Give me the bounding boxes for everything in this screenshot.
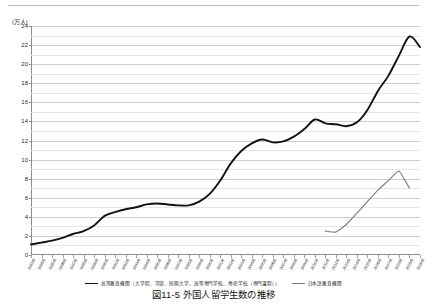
gridline-minor <box>31 150 420 151</box>
x-axis-tick-label: 1987年 <box>69 258 79 271</box>
x-axis-tick-label: 1997年 <box>174 258 184 271</box>
figure-container: (万人) 024681012141618202224 1983年1984年198… <box>0 0 427 306</box>
x-axis-tick-label: 1996年 <box>163 258 173 271</box>
x-axis-tick-label: 1988年 <box>79 258 89 271</box>
x-axis-tick-label: 1995年 <box>153 258 163 271</box>
chart-legend: 高等教育機関（大学院、学部、短期大学、高等専門学校、専修学校（専門課程））日本語… <box>0 281 427 286</box>
x-axis-tick-label: 2020年 <box>416 258 426 271</box>
y-axis-tick-label: 12 <box>21 138 28 144</box>
x-axis-tick-label: 1984年 <box>37 258 47 271</box>
x-axis-tick-label: 2004年 <box>247 258 257 271</box>
y-axis-tick-label: 24 <box>21 23 28 29</box>
y-axis-tick-label: 10 <box>21 157 28 163</box>
y-axis-tick-label: 6 <box>25 195 28 201</box>
y-axis-tick-label: 0 <box>25 252 28 258</box>
gridline-minor <box>31 74 420 75</box>
gridline-major <box>31 179 420 180</box>
x-axis-tick-label: 2000年 <box>205 258 215 271</box>
x-axis-tick-label: 1993年 <box>132 258 142 271</box>
x-axis-tick-label: 1989年 <box>90 258 100 271</box>
legend-label-japanese-language: 日本語教育機関 <box>308 281 342 286</box>
x-axis-tick-label: 2006年 <box>268 258 278 271</box>
y-axis-tick-mark <box>29 141 32 142</box>
series-line-japanese-language <box>325 171 409 232</box>
x-axis-tick-label: 1998年 <box>184 258 194 271</box>
figure-caption: 図11-5 外国人留学生数の推移 <box>0 289 427 301</box>
y-axis-tick-label: 20 <box>21 61 28 67</box>
y-axis-tick-mark <box>29 179 32 180</box>
x-axis-tick-label: 2012年 <box>332 258 342 271</box>
x-axis-tick-label: 2005年 <box>258 258 268 271</box>
x-axis-tick-label: 2007年 <box>279 258 289 271</box>
y-axis-tick-label: 14 <box>21 118 28 124</box>
y-axis-tick-mark <box>29 45 32 46</box>
x-axis-tick-label: 2014年 <box>353 258 363 271</box>
gridline-minor <box>31 112 420 113</box>
x-axis-tick-label: 2011年 <box>321 258 330 271</box>
x-axis-line <box>31 254 420 255</box>
y-axis-tick-mark <box>29 83 32 84</box>
y-axis-tick-label: 2 <box>25 233 28 239</box>
gridline-minor <box>31 207 420 208</box>
gridline-minor <box>31 226 420 227</box>
gridline-major <box>31 217 420 218</box>
y-axis-tick-mark <box>29 217 32 218</box>
legend-label-higher-education: 高等教育機関（大学院、学部、短期大学、高等専門学校、専修学校（専門課程）） <box>101 281 280 286</box>
y-axis-tick-label: 22 <box>21 42 28 48</box>
x-axis-tick-label: 1990年 <box>100 258 110 271</box>
y-axis-tick-label: 8 <box>25 176 28 182</box>
x-axis-tick-label: 2015年 <box>363 258 373 271</box>
gridline-major <box>31 121 420 122</box>
gridline-major <box>31 102 420 103</box>
y-axis-tick-mark <box>29 102 32 103</box>
x-axis-tick-label: 2008年 <box>290 258 300 271</box>
x-axis-tick-label: 2019年 <box>405 258 415 271</box>
y-axis-tick-label: 4 <box>25 214 28 220</box>
gridline-major <box>31 236 420 237</box>
x-axis-tick-label: 2017年 <box>384 258 394 271</box>
x-axis-tick-label: 1992年 <box>121 258 131 271</box>
x-axis-tick-label: 1994年 <box>142 258 152 271</box>
x-axis-tick-label: 2003年 <box>237 258 247 271</box>
gridline-minor <box>31 93 420 94</box>
gridline-minor <box>31 245 420 246</box>
y-axis-tick-label: 18 <box>21 80 28 86</box>
y-axis-tick-mark <box>29 64 32 65</box>
x-axis-tick-label: 2018年 <box>395 258 405 271</box>
y-axis-tick-mark <box>29 26 32 27</box>
y-axis-tick-mark <box>29 160 32 161</box>
x-axis-tick-label: 2010年 <box>311 258 321 271</box>
x-axis-tick-label: 2016年 <box>374 258 384 271</box>
gridline-minor <box>31 131 420 132</box>
gridline-major <box>31 83 420 84</box>
legend-item-japanese-language[interactable]: 日本語教育機関 <box>292 281 342 286</box>
x-axis-tick-label: 2001年 <box>216 258 226 271</box>
x-axis-tick-label: 1985年 <box>48 258 58 271</box>
x-axis-tick-label: 1999年 <box>195 258 205 271</box>
y-axis-tick-mark <box>29 236 32 237</box>
y-axis-tick-mark <box>29 198 32 199</box>
gridline-minor <box>31 169 420 170</box>
legend-item-higher-education[interactable]: 高等教育機関（大学院、学部、短期大学、高等専門学校、専修学校（専門課程）） <box>85 281 280 286</box>
gridline-major <box>31 160 420 161</box>
top-divider <box>8 5 419 6</box>
gridline-major <box>31 198 420 199</box>
gridline-major <box>31 45 420 46</box>
x-axis-tick-label: 1983年 <box>27 258 37 271</box>
gridline-major <box>31 26 420 27</box>
y-axis-tick-mark <box>29 121 32 122</box>
gridline-major <box>31 141 420 142</box>
gridline-minor <box>31 36 420 37</box>
gridline-major <box>31 64 420 65</box>
legend-swatch-higher-education <box>85 283 98 284</box>
gridline-minor <box>31 188 420 189</box>
y-axis-tick-label: 16 <box>21 99 28 105</box>
x-axis-tick-label: 2013年 <box>342 258 352 271</box>
gridline-minor <box>31 55 420 56</box>
x-axis-tick-label: 2002年 <box>226 258 236 271</box>
x-axis-tick-label: 1991年 <box>111 258 121 271</box>
x-axis-tick-label: 2009年 <box>300 258 310 271</box>
legend-swatch-japanese-language <box>292 283 305 284</box>
chart-plot-area: 024681012141618202224 1983年1984年1985年198… <box>31 26 420 255</box>
x-axis-tick-label: 1986年 <box>58 258 68 271</box>
